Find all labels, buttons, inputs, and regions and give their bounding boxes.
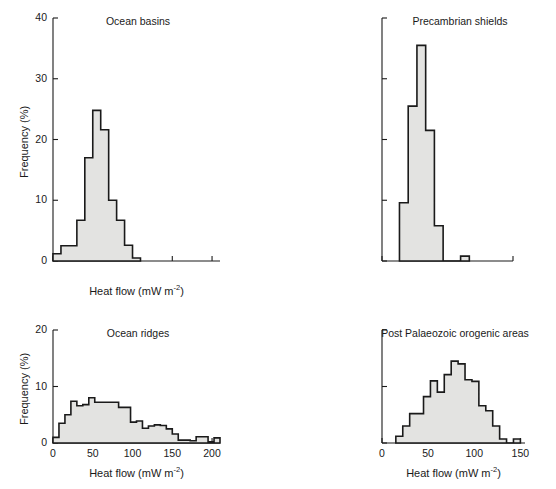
x-axis-label-exponent: -2 [174, 283, 181, 292]
panel-bottom-right [382, 330, 525, 443]
y-tick-label: 20 [35, 323, 47, 335]
x-axis-label-close: ) [180, 285, 184, 297]
plot-area-bottom-left [53, 330, 250, 457]
panel-title-top-left: Ocean basins [106, 15, 170, 27]
plot-area-top-right [382, 18, 543, 275]
panel-top-left [53, 18, 220, 261]
x-axis-label-text: Heat flow (mW m [89, 285, 173, 297]
x-axis-label-bottom-right: Heat flow (mW m-2) [406, 465, 501, 479]
histogram-outline [53, 110, 140, 261]
y-axis-label-top-left: Frequency (%) [18, 105, 30, 177]
x-axis-label-bottom-left: Heat flow (mW m-2) [89, 465, 184, 479]
y-tick-label: 30 [35, 72, 47, 84]
panel-bottom-left [53, 330, 220, 443]
y-tick-label: 0 [41, 254, 47, 266]
x-axis-label-text: Heat flow (mW m [406, 467, 490, 479]
y-axis-label-bottom-left: Frequency (%) [18, 352, 30, 424]
panel-title-bottom-left: Ocean ridges [107, 327, 169, 339]
heat-flow-histogram-figure: 010203040Ocean basinsFrequency (%)Heat f… [0, 0, 556, 489]
panel-title-bottom-right: Post Palaeozoic orogenic areas [381, 327, 529, 339]
plot-area-top-left [53, 18, 250, 275]
x-axis-label-exponent: -2 [174, 465, 181, 474]
histogram-outline [399, 45, 469, 261]
panel-top-right [382, 18, 513, 261]
y-tick-label: 10 [35, 193, 47, 205]
x-axis-label-top-left: Heat flow (mW m-2) [89, 283, 184, 297]
x-axis-label-exponent: -2 [491, 465, 498, 474]
y-tick-label: 20 [35, 133, 47, 145]
x-axis-label-close: ) [180, 467, 184, 479]
x-axis-label-close: ) [497, 467, 501, 479]
plot-area-bottom-right [382, 330, 555, 457]
histogram-outline [396, 361, 521, 443]
y-tick-label: 0 [41, 436, 47, 448]
panel-title-top-right: Precambrian shields [412, 15, 507, 27]
y-tick-label: 10 [35, 380, 47, 392]
histogram-outline [53, 398, 220, 443]
x-axis-label-text: Heat flow (mW m [89, 467, 173, 479]
y-tick-label: 40 [35, 11, 47, 23]
